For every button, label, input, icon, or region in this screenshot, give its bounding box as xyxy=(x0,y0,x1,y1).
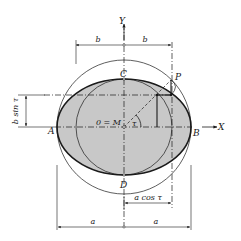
dim-label-acos: a cos τ xyxy=(134,193,162,202)
a-dim-center-dot xyxy=(123,226,125,228)
dim-label-b-right: b xyxy=(142,35,147,44)
label-point-a: A xyxy=(47,126,55,136)
inner-point-dot xyxy=(156,94,158,96)
label-origin: 0 = M xyxy=(96,118,122,127)
b-dim-center-dot xyxy=(123,44,125,46)
label-angle-tau: τ xyxy=(132,119,137,128)
dim-label-b-left: b xyxy=(95,35,100,44)
label-point-b: B xyxy=(192,128,200,138)
dim-label-bsin: b sin τ xyxy=(11,97,20,124)
origin-point xyxy=(123,126,126,129)
label-y-axis: Y xyxy=(119,16,126,26)
ellipse-point-dot xyxy=(170,94,172,96)
dim-label-a-left: a xyxy=(91,217,96,226)
ellipse-diagram: b b b sin τ a cos τ a a Y X A B C D P 0 … xyxy=(0,0,241,241)
point-d-dot xyxy=(123,174,125,176)
label-point-p: P xyxy=(174,72,182,82)
dim-label-a-right: a xyxy=(154,217,159,226)
label-x-axis: X xyxy=(217,122,225,132)
label-point-c: C xyxy=(120,69,127,79)
label-point-d: D xyxy=(119,180,127,190)
